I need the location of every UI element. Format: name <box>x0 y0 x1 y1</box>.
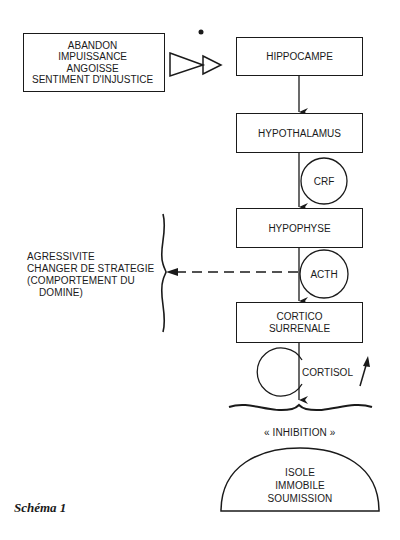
figure-caption: Schéma 1 <box>14 500 66 516</box>
inhibition-label: « INHIBITION » <box>264 427 335 439</box>
stressor-impuissance: IMPUISSANCE <box>32 51 153 63</box>
outcome-dome-text: ISOLE IMMOBILE SOUMISSION <box>240 466 360 505</box>
alt-agressivite: AGRESSIVITE <box>27 251 154 263</box>
hippocampe-box: HIPPOCAMPE <box>236 37 363 76</box>
alt-changer-strategie: CHANGER DE STRATEGIE <box>27 263 154 275</box>
dashed-arrow <box>166 268 298 276</box>
hypothalamus-box: HYPOTHALAMUS <box>236 113 363 153</box>
cortisol-label: CORTISOL <box>300 365 352 379</box>
left-brace <box>162 214 166 332</box>
outcome-isole: ISOLE <box>285 466 315 479</box>
increase-arrow-icon <box>360 356 370 386</box>
stressor-injustice: SENTIMENT D'INJUSTICE <box>32 74 153 86</box>
hypothalamus-label: HYPOTHALAMUS <box>258 128 341 139</box>
crf-label: CRF <box>301 174 347 188</box>
ink-dot <box>199 30 204 35</box>
cortico-label: CORTICO <box>277 311 323 323</box>
alt-domine: DOMINE) <box>27 287 154 299</box>
outcome-immobile: IMMOBILE <box>275 479 325 492</box>
stressor-abandon: ABANDON <box>32 40 153 52</box>
alt-comportement: (COMPORTEMENT DU <box>27 275 154 287</box>
acth-label: ACTH <box>300 267 348 281</box>
stressors-box: ABANDON IMPUISSANCE ANGOISSE SENTIMENT D… <box>23 33 165 92</box>
surrenale-label: SURRENALE <box>269 323 330 335</box>
cortisol-circle <box>257 348 302 396</box>
cortico-surrenale-box: CORTICO SURRENALE <box>236 302 363 343</box>
hypophyse-box: HYPOPHYSE <box>236 208 363 248</box>
bottom-brace <box>229 405 372 410</box>
hippocampe-label: HIPPOCAMPE <box>266 51 333 62</box>
double-arrow-icon <box>170 53 221 76</box>
alternative-response: AGRESSIVITE CHANGER DE STRATEGIE (COMPOR… <box>27 251 154 299</box>
hypophyse-label: HYPOPHYSE <box>268 223 330 234</box>
stressor-angoisse: ANGOISSE <box>32 63 153 75</box>
outcome-soumission: SOUMISSION <box>268 492 333 505</box>
